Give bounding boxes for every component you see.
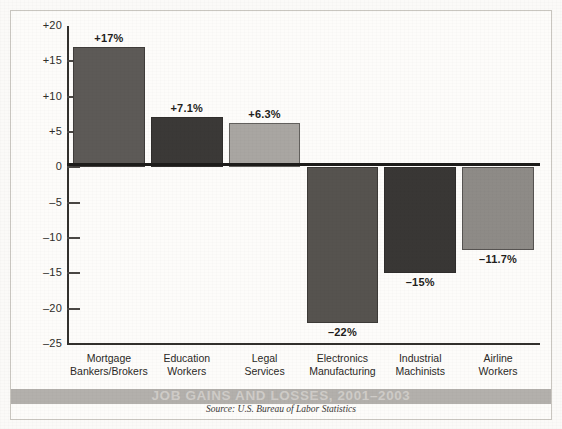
y-axis-line: [67, 26, 69, 344]
y-axis-tick-label: –5: [20, 196, 62, 208]
y-axis-tick: [67, 237, 80, 239]
y-axis-tick-label: –10: [20, 231, 62, 243]
category-label-line1: Mortgage: [87, 352, 131, 364]
chart-source: Source: U.S. Bureau of Labor Statistics: [11, 404, 551, 414]
bar: [462, 167, 534, 250]
y-axis-tick-label: –25: [20, 337, 62, 349]
category-label-line1: Industrial: [399, 352, 442, 364]
chart-figure: +20+15+10+50–5–10–15–20–25 +17%+7.1%+6.3…: [0, 0, 562, 429]
bar-value-label: +17%: [73, 32, 145, 44]
bar: [384, 167, 456, 273]
category-label-line1: Legal: [252, 352, 278, 364]
plot-area: +20+15+10+50–5–10–15–20–25 +17%+7.1%+6.3…: [0, 0, 562, 429]
y-axis-tick: [67, 308, 80, 310]
x-axis-category-label: AirlineWorkers: [452, 352, 544, 377]
category-label-line1: Electronics: [317, 352, 368, 364]
y-axis-tick: [67, 272, 80, 274]
bar-value-label: +6.3%: [229, 108, 301, 120]
bar: [151, 117, 223, 167]
y-axis-tick-label: +20: [20, 19, 62, 31]
y-axis-tick-label: +15: [20, 54, 62, 66]
y-axis-tick-label: +10: [20, 90, 62, 102]
y-axis-tick-label: +5: [20, 125, 62, 137]
category-label-line1: Airline: [483, 352, 512, 364]
x-axis-baseline: [67, 343, 540, 345]
bar-value-label: –11.7%: [462, 253, 534, 265]
y-axis-tick-label: –20: [20, 302, 62, 314]
bar-value-label: +7.1%: [151, 102, 223, 114]
zero-line: [67, 163, 540, 166]
bar-value-label: –22%: [307, 326, 379, 338]
category-label-line2: Workers: [452, 365, 544, 378]
bar: [307, 167, 379, 322]
bar-value-label: –15%: [384, 276, 456, 288]
y-axis-tick-label: –15: [20, 266, 62, 278]
bar: [229, 123, 301, 168]
chart-title: JOB GAINS AND LOSSES, 2001–2003: [11, 388, 551, 404]
bar: [73, 47, 145, 167]
y-axis-tick-label: 0: [20, 160, 62, 172]
category-label-line1: Education: [163, 352, 210, 364]
y-axis-tick: [67, 202, 80, 204]
